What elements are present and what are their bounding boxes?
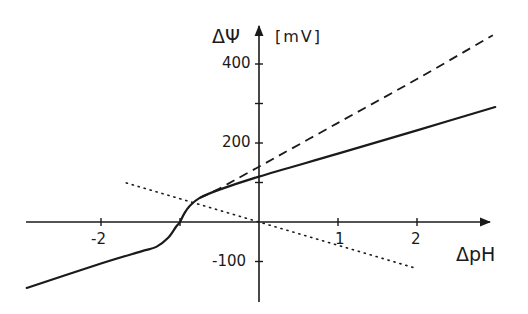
x-axis-label: ΔpH [456,245,495,264]
x-tick-label-minus-2: -2 [91,232,106,247]
y-axis-label: ΔΨ [212,27,240,46]
x-tick-label-2: 2 [411,232,421,247]
y-tick-label-200: 200 [222,135,251,150]
chart-canvas [0,0,528,314]
y-tick-label-400: 400 [222,56,251,71]
y-axis-unit: [mV] [275,29,322,45]
y-tick-label-minus-100: -100 [212,254,246,269]
series-dotted-line [126,183,413,268]
data-series [27,35,495,288]
x-tick-label-1: 1 [335,232,345,247]
